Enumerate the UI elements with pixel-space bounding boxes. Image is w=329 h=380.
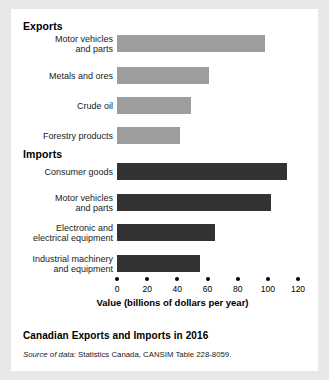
bar-row: Metals and ores: [11, 67, 318, 84]
x-tick-dot: [236, 277, 240, 281]
bar-category-label: Motor vehicles and parts: [15, 192, 113, 213]
bar-track: [117, 67, 318, 84]
figure-panel: Exports Imports Motor vehicles and parts…: [11, 9, 318, 371]
bar-track: [117, 97, 318, 114]
figure-caption: Canadian Exports and Imports in 2016: [23, 330, 308, 341]
bar-category-label: Metals and ores: [15, 70, 113, 81]
x-tick-label: 80: [233, 284, 242, 294]
bar-category-label: Consumer goods: [15, 166, 113, 177]
bar-exports: [117, 67, 209, 84]
bar-row: Crude oil: [11, 97, 318, 114]
x-tick-dot: [296, 277, 300, 281]
bar-row: Motor vehicles and parts: [11, 194, 318, 211]
source-label: Source of data:: [23, 350, 76, 359]
x-tick-label: 120: [291, 284, 305, 294]
x-tick-label: 0: [115, 284, 120, 294]
source-value: Statistics Canada, CANSIM Table 228-8059…: [76, 350, 231, 359]
x-tick-label: 60: [203, 284, 212, 294]
x-tick-label: 20: [142, 284, 151, 294]
bar-row: Industrial machinery and equipment: [11, 255, 318, 272]
bar-imports: [117, 224, 215, 241]
bar-category-label: Crude oil: [15, 100, 113, 111]
x-tick-label: 40: [173, 284, 182, 294]
bar-track: [117, 224, 318, 241]
x-tick-label: 100: [261, 284, 275, 294]
x-tick-dot: [145, 277, 149, 281]
bar-track: [117, 163, 318, 180]
x-axis-title: Value (billions of dollars per year): [11, 297, 318, 308]
x-tick-dot: [115, 277, 119, 281]
plot-area: Motor vehicles and partsMetals and oresC…: [11, 9, 318, 309]
bar-row: Consumer goods: [11, 163, 318, 180]
bar-track: [117, 255, 318, 272]
x-tick-dot: [266, 277, 270, 281]
bar-row: Electronic and electrical equipment: [11, 224, 318, 241]
x-tick-dot: [206, 277, 210, 281]
bar-track: [117, 127, 318, 144]
bar-imports: [117, 194, 271, 211]
bar-exports: [117, 35, 265, 52]
bar-track: [117, 194, 318, 211]
bar-row: Motor vehicles and parts: [11, 35, 318, 52]
bar-track: [117, 35, 318, 52]
x-tick-dot: [175, 277, 179, 281]
bar-category-label: Electronic and electrical equipment: [15, 222, 113, 243]
bar-row: Forestry products: [11, 127, 318, 144]
bar-category-label: Industrial machinery and equipment: [15, 253, 113, 274]
bar-imports: [117, 255, 200, 272]
bar-exports: [117, 97, 191, 114]
figure-source: Source of data: Statistics Canada, CANSI…: [23, 350, 313, 359]
bar-exports: [117, 127, 180, 144]
bar-category-label: Motor vehicles and parts: [15, 33, 113, 54]
bar-imports: [117, 163, 287, 180]
bar-category-label: Forestry products: [15, 130, 113, 141]
